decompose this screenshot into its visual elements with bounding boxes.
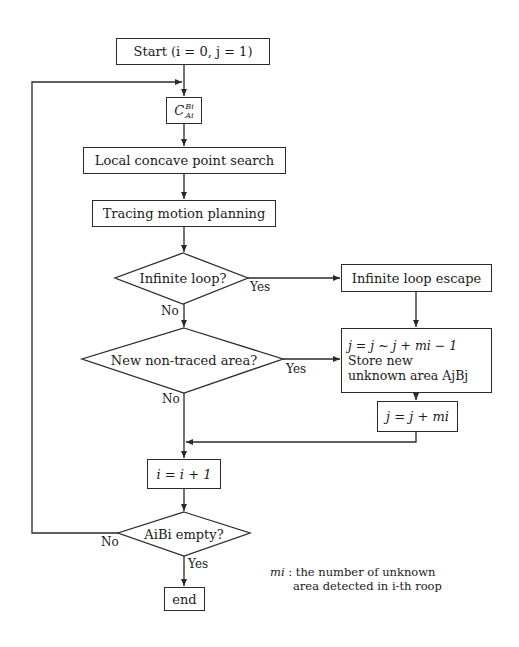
local-concave-search-label: Local concave point search [95,153,274,168]
store-unknown-area-node: j = j ~ j + mi − 1 Store new unknown are… [341,328,492,393]
infinite-loop-escape-label: Infinite loop escape [352,271,481,286]
infinite-loop-yes-label: Yes [250,280,270,294]
store-line-3: unknown area AjBj [348,368,468,383]
new-area-decision: New non-traced area? [111,353,257,368]
empty-check-decision: AiBi empty? [144,527,223,542]
empty-no-label: No [101,535,119,549]
flowchart-canvas: Start (i = 0, j = 1) CBiAi Local concave… [0,0,519,647]
note-line-1: : the number of unknown [288,565,435,579]
i-update-node: i = i + 1 [147,459,221,489]
start-label: Start (i = 0, j = 1) [134,44,253,59]
c-space-node: CBiAi [166,97,202,124]
end-label: end [172,592,196,607]
connector-lines [0,0,519,647]
note-line-2: area detected in i-th roop [293,579,442,593]
new-area-no-label: No [162,392,180,406]
j-update-label: j = j + mi [386,409,449,424]
c-space-label: C [174,103,184,118]
new-area-yes-label: Yes [286,362,306,376]
note-symbol: mi [270,565,285,579]
infinite-loop-decision: Infinite loop? [140,271,227,286]
local-concave-search-node: Local concave point search [83,147,286,174]
legend-note: mi : the number of unknown area detected… [270,565,442,593]
store-line-1: j = j ~ j + mi − 1 [348,338,457,353]
end-node: end [164,587,205,611]
tracing-motion-planning-label: Tracing motion planning [103,206,266,221]
c-space-sup: Bi [185,102,193,111]
c-space-sub: Ai [185,111,193,120]
start-node: Start (i = 0, j = 1) [116,38,270,65]
infinite-loop-escape-node: Infinite loop escape [341,264,492,292]
infinite-loop-no-label: No [161,304,179,318]
i-update-label: i = i + 1 [157,467,212,482]
tracing-motion-planning-node: Tracing motion planning [92,200,276,227]
empty-yes-label: Yes [188,557,208,571]
j-update-node: j = j + mi [377,401,458,432]
store-line-2: Store new [348,353,413,368]
